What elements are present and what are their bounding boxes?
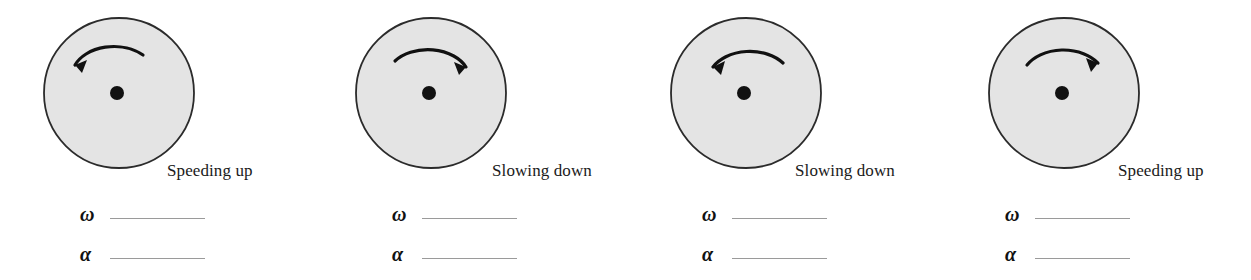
disk-panel-4: Speeding up ω α — [939, 0, 1251, 280]
alpha-row-3: α — [702, 243, 827, 265]
alpha-symbol-1: α — [80, 244, 102, 264]
alpha-answer-blank-1[interactable] — [110, 258, 205, 259]
disk-svg-2 — [350, 11, 512, 175]
disk-panel-3: Slowing down ω α — [627, 0, 939, 280]
disk-svg-4 — [983, 11, 1145, 175]
alpha-symbol-4: α — [1005, 244, 1027, 264]
alpha-symbol-2: α — [392, 244, 414, 264]
omega-symbol-4: ω — [1005, 204, 1027, 224]
state-label-4: Speeding up — [1118, 161, 1204, 181]
alpha-row-1: α — [80, 243, 205, 265]
state-label-3: Slowing down — [795, 161, 895, 181]
disk-hub-4 — [1055, 86, 1069, 100]
disk-hub-3 — [737, 86, 751, 100]
alpha-symbol-3: α — [702, 244, 724, 264]
alpha-answer-blank-2[interactable] — [422, 258, 517, 259]
state-label-2: Slowing down — [492, 161, 592, 181]
state-label-1: Speeding up — [167, 161, 253, 181]
alpha-row-2: α — [392, 243, 517, 265]
omega-symbol-3: ω — [702, 204, 724, 224]
alpha-row-4: α — [1005, 243, 1130, 265]
omega-answer-blank-2[interactable] — [422, 218, 517, 219]
disk-panel-1: Speeding up ω α — [0, 0, 312, 280]
omega-symbol-2: ω — [392, 204, 414, 224]
omega-symbol-1: ω — [80, 204, 102, 224]
omega-answer-blank-4[interactable] — [1035, 218, 1130, 219]
omega-row-2: ω — [392, 203, 517, 225]
omega-row-1: ω — [80, 203, 205, 225]
alpha-answer-blank-4[interactable] — [1035, 258, 1130, 259]
omega-answer-blank-3[interactable] — [732, 218, 827, 219]
disk-hub-1 — [110, 86, 124, 100]
omega-row-3: ω — [702, 203, 827, 225]
disk-graphic-4 — [939, 0, 1251, 190]
disk-hub-2 — [422, 86, 436, 100]
omega-answer-blank-1[interactable] — [110, 218, 205, 219]
disk-panel-2: Slowing down ω α — [312, 0, 624, 280]
disk-svg-3 — [665, 11, 827, 175]
alpha-answer-blank-3[interactable] — [732, 258, 827, 259]
rotating-disks-figure: Speeding up ω α Slowing down ω — [0, 0, 1251, 280]
disk-svg-1 — [38, 11, 200, 175]
omega-row-4: ω — [1005, 203, 1130, 225]
disk-graphic-1 — [0, 0, 312, 190]
